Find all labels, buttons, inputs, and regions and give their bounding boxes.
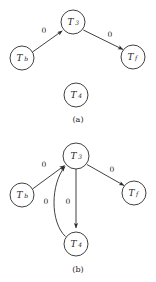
node-label-t3-subscript: 3 — [75, 19, 79, 26]
node-label-t4-base: T — [70, 239, 77, 249]
graph-svg-a: 0 0 T b T 3 T f — [0, 0, 156, 134]
node-label-t4-subscript: 4 — [77, 92, 82, 99]
node-label-tb-base: T — [16, 53, 23, 63]
node-label-tb-subscript: b — [24, 192, 28, 199]
node-group-a: T b T 3 T f T 4 — [10, 10, 145, 107]
edge-tb-to-t3 — [33, 31, 63, 52]
node-t3-b[interactable]: T 3 — [63, 143, 89, 169]
node-group-b: T b T 3 T f T 4 — [10, 143, 146, 256]
edge-t3-to-tf — [87, 165, 124, 186]
node-label-tb-subscript: b — [24, 55, 28, 62]
caption-b: (b) — [72, 265, 83, 274]
node-tb-a[interactable]: T b — [10, 46, 34, 70]
node-tf-b[interactable]: T f — [122, 181, 146, 205]
node-label-t4-subscript: 4 — [77, 241, 82, 248]
figure-root: 0 0 T b T 3 T f — [0, 0, 156, 282]
node-label-tf-base: T — [127, 52, 134, 62]
node-label-t3-base: T — [70, 151, 77, 161]
node-label-t3-base: T — [67, 17, 74, 27]
node-t4-b[interactable]: T 4 — [64, 232, 88, 256]
diagram-panel-a: 0 0 T b T 3 T f — [0, 0, 156, 134]
edge-label-t3-tf: 0 — [108, 30, 113, 39]
node-label-tf-base: T — [128, 188, 135, 198]
node-label-tb-base: T — [16, 190, 23, 200]
caption-a: (a) — [72, 115, 83, 124]
diagram-panel-b: 0 0 0 0 T b T 3 T — [0, 134, 156, 282]
edge-t4-to-t3-curve — [54, 167, 66, 237]
node-tf-a[interactable]: T f — [121, 45, 145, 69]
node-label-t4-base: T — [70, 90, 77, 100]
edge-t3-to-tf — [83, 30, 123, 50]
node-t4-a[interactable]: T 4 — [64, 83, 88, 107]
edge-label-t4-t3: 0 — [44, 197, 49, 206]
edge-tb-to-t3 — [33, 166, 65, 190]
node-label-t3-subscript: 3 — [78, 153, 82, 160]
node-tb-b[interactable]: T b — [10, 183, 34, 207]
edge-label-t3-t4: 0 — [66, 197, 71, 206]
node-t3-a[interactable]: T 3 — [61, 10, 85, 34]
edge-label-t3-tf: 0 — [110, 165, 115, 174]
edge-label-tb-t3: 0 — [42, 26, 47, 35]
graph-svg-b: 0 0 0 0 T b T 3 T — [0, 134, 156, 282]
edge-label-tb-t3: 0 — [42, 160, 47, 169]
